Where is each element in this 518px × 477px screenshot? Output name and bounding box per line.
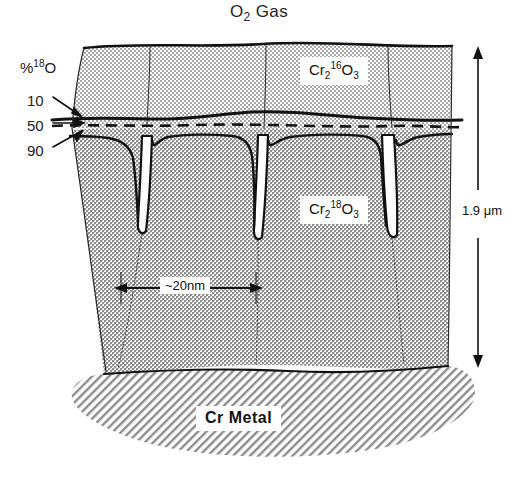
inner-oxide-isotope: 18 [330, 199, 341, 210]
contour-label-90: 90 [27, 142, 44, 159]
region-inner-oxide [52, 112, 462, 374]
outer-oxide-cr: Cr [309, 61, 325, 78]
outer-oxide-cr-count: 2 [325, 70, 331, 81]
inner-oxide-cr: Cr [309, 200, 325, 217]
contour-label-10: 10 [27, 92, 44, 109]
inner-oxide-o-count: 3 [353, 209, 359, 220]
outer-oxide-isotope: 16 [330, 60, 341, 71]
outer-oxide-o-count: 3 [353, 70, 359, 81]
legend-header-pct18o: %18O [20, 58, 56, 76]
region-label-inner-oxide: Cr218O3 [300, 196, 368, 224]
environment-label-trail: Gas [251, 2, 289, 21]
contour-label-50: 50 [27, 117, 44, 134]
environment-label-sub: 2 [244, 10, 251, 24]
region-label-outer-oxide: Cr216O3 [300, 57, 368, 85]
region-label-metal: Cr Metal [196, 406, 281, 431]
outer-oxide-o: O [342, 61, 354, 78]
inner-oxide-cr-count: 2 [325, 209, 331, 220]
dimension-label-grain-width: ~20nm [160, 277, 210, 294]
legend-element: O [44, 59, 56, 76]
figure-root: O2 Gas %18O 10 50 90 Cr216O3 Cr218O3 Cr … [0, 0, 518, 477]
legend-percent-sign: % [20, 59, 33, 76]
dimension-label-thickness: 1.9 μm [459, 202, 505, 219]
legend-isotope-mass: 18 [33, 58, 44, 69]
inner-oxide-o: O [342, 200, 354, 217]
environment-label-lead: O [230, 2, 244, 21]
environment-label: O2 Gas [0, 2, 518, 24]
